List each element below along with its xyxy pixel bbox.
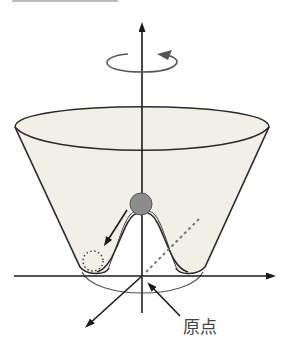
origin-label: 原点 <box>183 313 217 338</box>
ball-at-top <box>130 193 152 215</box>
mexican-hat-diagram <box>0 0 285 351</box>
rotation-arrowhead-icon <box>157 50 172 60</box>
depth-axis-arrow <box>88 276 142 325</box>
top-bar <box>12 0 118 2</box>
